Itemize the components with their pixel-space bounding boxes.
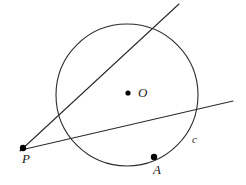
geometry-figure — [0, 0, 246, 185]
label-point-p: P — [22, 152, 30, 165]
center-o-dot — [125, 90, 130, 95]
label-circle-c: c — [192, 134, 197, 145]
chord-line-through-p-a — [21, 101, 233, 150]
diagram-canvas: P A O c — [0, 0, 246, 185]
label-center-o: O — [138, 86, 147, 99]
point-a-dot — [151, 154, 157, 160]
label-point-a: A — [153, 163, 161, 176]
secant-line-through-p — [20, 4, 179, 151]
